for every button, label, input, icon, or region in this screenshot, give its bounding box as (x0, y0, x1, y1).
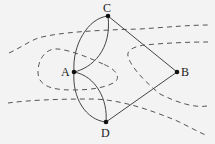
graph-edges (74, 16, 177, 122)
upper-bank-line (9, 25, 209, 53)
node-b-label: B (181, 66, 189, 78)
node-a-label: A (61, 66, 70, 78)
node-c-label: C (103, 2, 111, 14)
edge-a-d-inner (74, 72, 106, 122)
edge-c-b (108, 16, 177, 72)
node-d-dot (104, 120, 109, 125)
node-d-label: D (101, 127, 110, 139)
diagram-canvas: A B C D (0, 0, 215, 144)
island-left-line (38, 49, 117, 90)
node-a-dot (72, 70, 77, 75)
node-b-dot (175, 70, 180, 75)
island-right-line (128, 42, 208, 106)
dashed-boundaries (8, 25, 209, 136)
